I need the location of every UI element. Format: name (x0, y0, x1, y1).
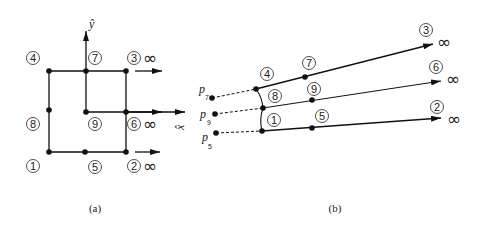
p5-label: p (201, 130, 208, 144)
panel-a-caption: (a) (89, 202, 102, 215)
node-8-label: 8 (30, 118, 36, 130)
b-node-2-label: 2 (434, 101, 440, 113)
node-2-label: 2 (131, 160, 137, 172)
b-node-6-infinity: ∞ (446, 69, 460, 89)
ray-1-5-2 (262, 118, 441, 131)
p9-subscript: 9 (207, 119, 211, 126)
panel-b-dashed-links (212, 89, 263, 133)
b-node-9-label: 9 (311, 83, 317, 95)
edge-4-8 (256, 89, 263, 108)
p5-subscript: 5 (208, 143, 212, 150)
b-node-6-label: 6 (433, 61, 439, 73)
node-3-infinity: ∞ (143, 48, 157, 68)
b-node-3-label: 3 (423, 24, 429, 36)
node-9-label: 9 (92, 118, 98, 130)
ray-4-7-3 (256, 44, 433, 89)
ray-8-9-6 (263, 81, 441, 108)
node-6-label: 6 (131, 118, 137, 130)
p7-subscript: 7 (205, 94, 209, 101)
p7-label: p (198, 82, 205, 96)
b-node-2-infinity: ∞ (447, 109, 461, 129)
panel-a: 4 7 3 8 9 6 1 5 2 ∞ ∞ ∞ ŷ x̂ (a) (27, 17, 188, 215)
panel-b-vertices (209, 74, 315, 136)
y-axis-label: ŷ (88, 17, 95, 31)
x-axis-label: x̂ (173, 124, 187, 131)
node-1-label: 1 (30, 160, 36, 172)
b-node-7-label: 7 (306, 57, 312, 69)
b-node-8-label: 8 (272, 90, 278, 102)
panel-b: 4 7 3 8 9 6 1 5 2 ∞ ∞ ∞ p 7 p 9 p 5 (b) (198, 24, 461, 216)
node-2-infinity: ∞ (143, 156, 157, 176)
panel-b-caption: (b) (329, 202, 342, 215)
b-node-3-infinity: ∞ (437, 32, 451, 52)
p9-label: p (199, 107, 206, 121)
edge-8-1 (261, 108, 263, 131)
node-5-label: 5 (92, 161, 98, 173)
panel-b-label-circles (261, 24, 444, 127)
diagram-canvas: 4 7 3 8 9 6 1 5 2 ∞ ∞ ∞ ŷ x̂ (a) (0, 0, 491, 226)
node-4-label: 4 (30, 52, 36, 64)
b-node-1-label: 1 (271, 114, 277, 126)
node-7-label: 7 (92, 52, 98, 64)
node-6-infinity: ∞ (143, 114, 157, 134)
b-node-5-label: 5 (319, 110, 325, 122)
b-node-4-label: 4 (264, 68, 270, 80)
node-3-label: 3 (131, 52, 137, 64)
